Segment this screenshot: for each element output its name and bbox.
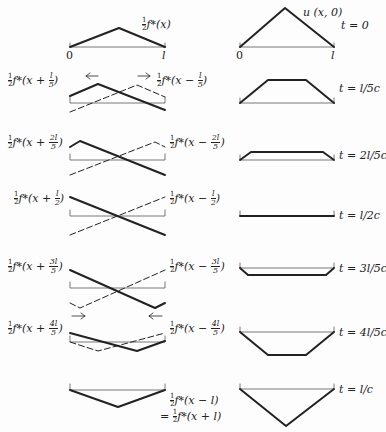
left-row-3 <box>70 141 165 175</box>
axis-end-left: l <box>162 50 166 61</box>
right-row-6 <box>240 327 334 355</box>
label-minus-3l5: 12f*(x − 3l5) <box>170 258 225 275</box>
axis-origin-right: 0 <box>236 50 243 61</box>
right-row-4 <box>240 211 334 216</box>
label-plus-4l5: 12f*(x + 4l5) <box>8 320 63 337</box>
label-minus-2l5: 12f*(x − 2l5) <box>170 134 225 151</box>
axis-origin-left: 0 <box>66 50 73 61</box>
time-label-0: t = 0 <box>341 20 369 31</box>
time-label-l2c: t = l/2c <box>339 210 380 221</box>
left-row-6 <box>70 333 165 351</box>
label-plus-l2: 12f*(x + l2) <box>14 190 64 207</box>
label-minus-4l5: 12f*(x − 4l5) <box>170 320 225 337</box>
time-label-l5c: t = l/5c <box>339 83 380 94</box>
diagram-graphics <box>0 0 386 432</box>
left-row-4 <box>70 197 165 235</box>
wave-superposition-diagram: 0 l 0 l 12f*(x) u (x, 0) t = 0 12f*(x + … <box>0 0 386 432</box>
right-row-2 <box>240 80 334 103</box>
right-row-5 <box>240 263 334 275</box>
label-minus-l2: 12f*(x − l2) <box>170 190 220 207</box>
time-label-lc: t = l/c <box>339 384 373 395</box>
label-minus-l5: 12f*(x − l5) <box>157 72 207 89</box>
time-label-2l5c: t = 2l/5c <box>339 150 386 161</box>
time-label-4l5c: t = 4l/5c <box>339 327 386 338</box>
left-row-7 <box>70 384 165 407</box>
label-plus-2l5: 12f*(x + 2l5) <box>8 134 63 151</box>
label-plus-3l5: 12f*(x + 3l5) <box>8 258 63 275</box>
left-row-2 <box>70 84 165 112</box>
time-label-3l5c: t = 3l/5c <box>339 263 386 274</box>
label-final-plus-l: = 12f*(x + l) <box>160 409 221 424</box>
right-row-7 <box>240 384 334 426</box>
label-plus-l5: 12f*(x + l5) <box>8 72 58 89</box>
label-final-minus-l: 12f*(x − l) <box>170 393 219 408</box>
axis-end-right: l <box>331 50 335 61</box>
label-u-x-0: u (x, 0) <box>303 7 342 18</box>
left-row-5 <box>70 270 165 319</box>
right-row-3 <box>240 152 334 160</box>
label-half-f-star-x: 12f*(x) <box>142 17 171 32</box>
